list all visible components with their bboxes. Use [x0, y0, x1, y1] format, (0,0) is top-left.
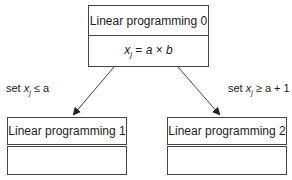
right-branch-label: set xj ≥ a + 1 — [228, 82, 290, 96]
times-sign: × — [152, 43, 166, 57]
left-node-body — [7, 146, 127, 175]
right-node-body — [167, 146, 287, 175]
left-branch-arrow — [74, 67, 114, 114]
root-title-text: Linear programming 0 — [90, 14, 207, 28]
left-node-title: Linear programming 1 — [7, 117, 127, 145]
left-title-text: Linear programming 1 — [8, 124, 125, 138]
root-node-constraint: xj = a × b — [88, 35, 209, 67]
label-prefix: set — [6, 82, 24, 94]
var-b: b — [166, 43, 173, 57]
root-node-title: Linear programming 0 — [88, 5, 209, 36]
left-branch-label: set xj ≤ a — [6, 82, 49, 96]
right-title-text: Linear programming 2 — [168, 124, 285, 138]
root-constraint-expression: xj = a × b — [124, 43, 173, 59]
label-prefix: set — [228, 82, 246, 94]
right-node-title: Linear programming 2 — [167, 117, 287, 145]
label-condition: ≥ a + 1 — [253, 82, 290, 94]
right-branch-arrow — [178, 67, 219, 114]
label-condition: ≤ a — [31, 82, 49, 94]
equals-sign: = — [132, 43, 146, 57]
